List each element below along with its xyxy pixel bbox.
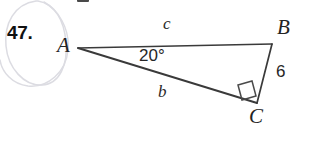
vertex-label-a: A xyxy=(57,35,70,56)
segment-ac xyxy=(78,48,257,103)
right-angle-marker xyxy=(238,81,256,100)
side-length-label-6: 6 xyxy=(276,63,285,80)
side-label-b: b xyxy=(158,83,167,100)
clipped-top-mark xyxy=(77,0,89,2)
side-label-c: c xyxy=(163,15,171,32)
vertex-label-c: C xyxy=(249,106,263,127)
triangle-drawing xyxy=(0,0,310,145)
segment-ab xyxy=(78,44,272,48)
segment-bc xyxy=(257,44,272,103)
angle-label-20-degrees: 20° xyxy=(139,47,165,64)
triangle-outline xyxy=(78,44,272,103)
problem-number: 47. xyxy=(7,23,33,42)
vertex-label-b: B xyxy=(277,17,290,38)
geometry-figure: 47. A B C c b 20° 6 xyxy=(0,0,310,145)
